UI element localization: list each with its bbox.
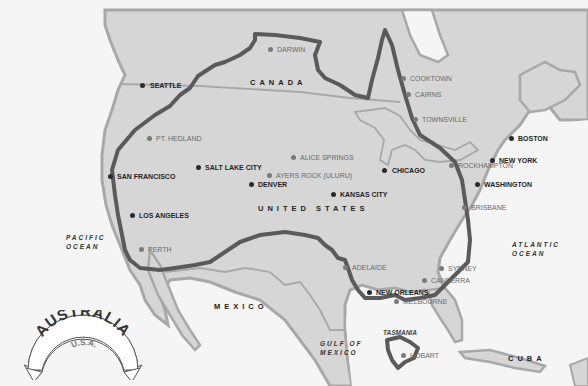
city-dot-icon — [422, 278, 427, 283]
city-dot-icon — [475, 182, 480, 187]
city-dot-icon — [401, 353, 406, 358]
city-dot-icon — [509, 136, 514, 141]
city-dot-icon — [249, 182, 254, 187]
city-dot-icon — [406, 92, 411, 97]
city-dot-icon — [331, 192, 336, 197]
city-dot-icon — [130, 213, 135, 218]
city-dot-icon — [439, 266, 444, 271]
city-dot-icon — [449, 163, 454, 168]
label-united-states: UNITED STATES — [258, 204, 368, 213]
label-atlantic-ocean: ATLANTIC OCEAN — [512, 240, 560, 258]
city-dot-icon — [413, 117, 418, 122]
title-badge: AUSTRALIA U.S.A. — [20, 310, 145, 380]
badge-sub-text: U.S.A. — [70, 338, 98, 350]
city-dot-icon — [196, 165, 201, 170]
label-mexico: MEXICO — [214, 302, 268, 311]
svg-text:U.S.A.: U.S.A. — [70, 338, 98, 350]
label-gulf-of-mexico: GULF OF MEXICO — [320, 339, 363, 357]
map-canvas: AUSTRALIA U.S.A. CANADA UNITED STATES ME… — [0, 0, 588, 386]
label-cuba: CUBA — [508, 354, 546, 363]
label-pacific-ocean: PACIFIC OCEAN — [66, 233, 106, 251]
city-dot-icon — [139, 247, 144, 252]
city-dot-icon — [367, 290, 372, 295]
city-dot-icon — [268, 47, 273, 52]
city-dot-icon — [462, 205, 467, 210]
city-dot-icon — [382, 168, 387, 173]
city-dot-icon — [401, 76, 406, 81]
city-dot-icon — [394, 299, 399, 304]
city-dot-icon — [147, 136, 152, 141]
city-dot-icon — [343, 265, 348, 270]
city-dot-icon — [108, 174, 113, 179]
label-canada: CANADA — [250, 78, 307, 87]
city-dot-icon — [140, 83, 145, 88]
city-dot-icon — [291, 155, 296, 160]
city-dot-icon — [267, 173, 272, 178]
label-tasmania: TASMANIA — [383, 329, 417, 336]
